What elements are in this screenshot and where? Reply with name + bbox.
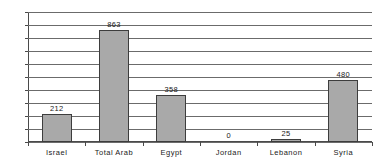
bar-group: 358	[143, 12, 200, 142]
x-axis-tick	[143, 142, 144, 146]
x-axis-tick	[200, 142, 201, 146]
bar: 480	[328, 80, 358, 142]
bar-group: 212	[28, 12, 85, 142]
x-axis-category-label: Egypt	[143, 148, 200, 157]
bar-group: 25	[257, 12, 314, 142]
x-axis-category-label: Lebanon	[257, 148, 314, 157]
x-axis-tick	[315, 142, 316, 146]
bar-value-label: 0	[226, 131, 230, 140]
bar-value-label: 25	[281, 129, 290, 138]
x-axis-ticks	[28, 142, 372, 147]
x-axis-category-label: Israel	[28, 148, 85, 157]
x-axis-tick	[28, 142, 29, 146]
bars-layer: 212863358025480	[28, 12, 372, 142]
bar-group: 480	[315, 12, 372, 142]
bar-value-label: 212	[50, 104, 63, 113]
bar-value-label: 480	[337, 70, 350, 79]
x-axis-tick	[257, 142, 258, 146]
bar: 212	[42, 114, 72, 142]
bar: 358	[156, 95, 186, 142]
x-axis-category-label: Syria	[315, 148, 372, 157]
plot-area: 212863358025480	[28, 12, 372, 142]
x-axis-category-label: Jordan	[200, 148, 257, 157]
x-axis-tick	[372, 142, 373, 146]
bar-group: 863	[85, 12, 142, 142]
bar-group: 0	[200, 12, 257, 142]
x-axis-labels: IsraelTotal ArabEgyptJordanLebanonSyria	[28, 148, 372, 157]
x-axis-tick	[85, 142, 86, 146]
bar-value-label: 863	[107, 20, 120, 29]
bar-value-label: 358	[165, 85, 178, 94]
bar-chart: 212863358025480 100090080070060050040030…	[0, 0, 376, 168]
x-axis-category-label: Total Arab	[85, 148, 142, 157]
bar: 863	[99, 30, 129, 142]
